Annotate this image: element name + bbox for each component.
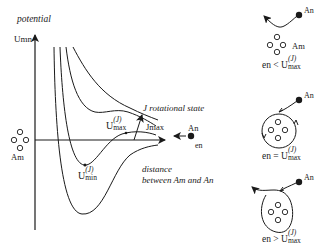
label-an-main: An (188, 124, 198, 133)
label-jmax: Jmax (146, 123, 164, 132)
label-an-case2: An (304, 92, 314, 100)
label-u-max: U(J)max (106, 121, 126, 132)
label-am-case1: Am (292, 42, 305, 51)
case-orbiting (262, 97, 302, 148)
u-max-point (125, 132, 128, 135)
case-captured (252, 179, 302, 233)
label-energy-main: en (195, 142, 203, 150)
label-an-case1: An (304, 7, 314, 15)
label-u-min: U(J)min (78, 171, 97, 182)
y-axis-symbol: Umn (14, 35, 32, 44)
label-rotational-state: J rotational state (143, 104, 204, 113)
x-axis-title-line1: distance (142, 165, 172, 174)
label-am-left: Am (11, 153, 24, 162)
particle-an-main (188, 133, 194, 139)
label-an-case3: An (304, 174, 314, 182)
condition-case2: en = U(J)max (262, 152, 301, 162)
y-axis-title: potential (17, 15, 51, 25)
condition-case1: en < U(J)max (262, 61, 301, 71)
molecule-am-left (11, 129, 28, 150)
condition-case3: en > U(J)max (262, 235, 301, 245)
rotational-state-arrow (134, 115, 142, 140)
x-axis-title-line2: between Am and An (142, 176, 213, 185)
potential-curve-j (60, 47, 156, 165)
